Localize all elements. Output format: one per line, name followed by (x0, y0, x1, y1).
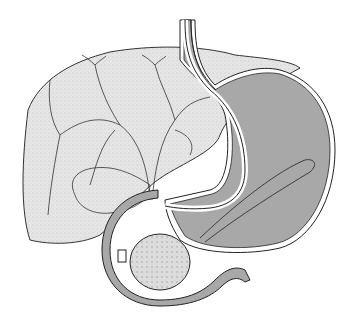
papilla (118, 250, 126, 262)
anatomy-illustration (0, 0, 355, 322)
pancreas (130, 234, 190, 290)
